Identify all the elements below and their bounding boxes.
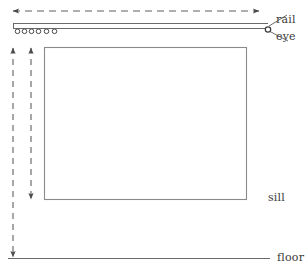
rail-carrier-circle [22, 29, 27, 34]
floor-label: floor [277, 251, 304, 264]
window-sill-rectangle [45, 48, 247, 200]
eye-label: eye [276, 30, 296, 43]
diagram-vector-layer [0, 0, 308, 279]
rail-carrier-circle [29, 29, 34, 34]
rail-carrier-circle [44, 29, 49, 34]
sill-label: sill [268, 191, 285, 204]
rail-carrier-circle [36, 29, 41, 34]
diagram-canvas: rail eye sill floor [0, 0, 308, 279]
rail-carrier-circles [15, 29, 57, 34]
eye-circle [265, 27, 270, 32]
rail-carrier-circle [15, 29, 20, 34]
rail-label: rail [276, 13, 296, 26]
rail-carrier-circle [52, 29, 57, 34]
